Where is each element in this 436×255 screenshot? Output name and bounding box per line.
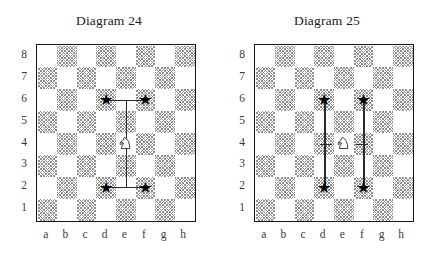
star-icon-f2: ★: [354, 177, 374, 199]
diagram-24-file-labels: a b c d e f g h: [36, 224, 196, 244]
diagram-25-overlay: ★ ★ ★ ★: [256, 46, 413, 221]
move-line-tick-rank4-right: [356, 144, 368, 145]
move-line-tick-rank4-left: [320, 144, 332, 145]
rank-label-6: 6: [14, 88, 34, 110]
knight-icon-e4: [116, 133, 136, 155]
star-icon-d6: ★: [314, 89, 334, 111]
star-icon-d2: ★: [314, 177, 334, 199]
file-label-h: h: [173, 224, 193, 244]
rank-label-2: 2: [232, 175, 252, 197]
file-label-f: f: [352, 224, 372, 244]
diagram-24-overlay: ★ ★ ★ ★: [38, 46, 195, 221]
star-icon-d6: ★: [96, 89, 116, 111]
diagram-24-title: Diagram 24: [0, 13, 218, 29]
rank-label-5: 5: [14, 110, 34, 132]
chess-diagram-page: Diagram 24 8 7 6 5 4 3 2 1 ★ ★ ★: [0, 0, 436, 255]
file-label-c: c: [293, 224, 313, 244]
rank-label-3: 3: [14, 153, 34, 175]
file-label-g: g: [154, 224, 174, 244]
rank-label-4: 4: [232, 132, 252, 154]
file-label-a: a: [254, 224, 274, 244]
file-label-a: a: [36, 224, 56, 244]
file-label-d: d: [313, 224, 333, 244]
diagram-25-rank-labels: 8 7 6 5 4 3 2 1: [232, 44, 252, 222]
file-label-f: f: [134, 224, 154, 244]
diagram-25: Diagram 25 8 7 6 5 4 3 2 1 ★: [218, 0, 436, 255]
rank-label-6: 6: [232, 88, 252, 110]
rank-label-7: 7: [232, 66, 252, 88]
star-icon-f6: ★: [136, 89, 156, 111]
star-icon-f6: ★: [354, 89, 374, 111]
diagram-24-rank-labels: 8 7 6 5 4 3 2 1: [14, 44, 34, 222]
diagram-25-file-labels: a b c d e f g h: [254, 224, 414, 244]
file-label-e: e: [115, 224, 135, 244]
file-label-c: c: [75, 224, 95, 244]
rank-label-5: 5: [232, 110, 252, 132]
rank-label-1: 1: [232, 197, 252, 219]
file-label-b: b: [56, 224, 76, 244]
diagram-24: Diagram 24 8 7 6 5 4 3 2 1 ★ ★ ★: [0, 0, 218, 255]
file-label-b: b: [274, 224, 294, 244]
rank-label-2: 2: [14, 175, 34, 197]
knight-icon-e4: [334, 133, 354, 155]
rank-label-4: 4: [14, 132, 34, 154]
diagram-25-board: ★ ★ ★ ★: [254, 44, 414, 222]
file-label-h: h: [391, 224, 411, 244]
file-label-e: e: [333, 224, 353, 244]
file-label-d: d: [95, 224, 115, 244]
rank-label-3: 3: [232, 153, 252, 175]
rank-label-1: 1: [14, 197, 34, 219]
star-icon-f2: ★: [136, 177, 156, 199]
diagram-25-title: Diagram 25: [218, 13, 436, 29]
diagram-24-board: ★ ★ ★ ★: [36, 44, 196, 222]
rank-label-8: 8: [232, 44, 252, 66]
rank-label-8: 8: [14, 44, 34, 66]
rank-label-7: 7: [14, 66, 34, 88]
file-label-g: g: [372, 224, 392, 244]
star-icon-d2: ★: [96, 177, 116, 199]
